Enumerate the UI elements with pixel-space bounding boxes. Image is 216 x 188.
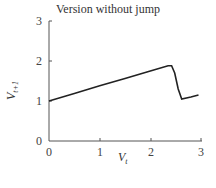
x-tick-2: 2: [148, 145, 154, 160]
y-tick-0: 0: [36, 134, 42, 149]
plot-area: [0, 0, 216, 188]
y-tick-1: 1: [36, 94, 42, 109]
x-axis-label: Vt: [118, 150, 128, 166]
data-line: [49, 66, 199, 101]
x-tick-0: 0: [46, 145, 52, 160]
x-tick-1: 1: [97, 145, 103, 160]
x-tick-3: 3: [198, 145, 204, 160]
y-tick-2: 2: [36, 54, 42, 69]
y-axis-label: Vt+1: [4, 81, 20, 100]
y-tick-3: 3: [36, 14, 42, 29]
